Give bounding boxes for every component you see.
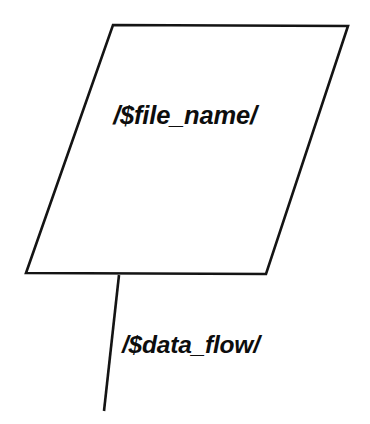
- data-flow-label: /$data_flow/: [121, 331, 262, 358]
- data-flow-line[interactable]: [104, 275, 119, 411]
- data-flow-diagram: /$file_name/ /$data_flow/: [0, 0, 370, 424]
- file-store-label: /$file_name/: [112, 101, 260, 129]
- file-store-parallelogram[interactable]: [26, 25, 348, 274]
